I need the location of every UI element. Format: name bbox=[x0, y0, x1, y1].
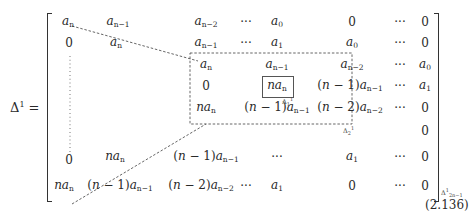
m-r7-c8: 0 bbox=[421, 151, 429, 163]
m-r3-c6: an−2 bbox=[340, 58, 363, 72]
m-r8-c5: a1 bbox=[271, 179, 283, 193]
m-r2-c5: a1 bbox=[271, 36, 283, 50]
m-r2-c3: an−1 bbox=[194, 36, 217, 50]
m-r4-c3: 0 bbox=[202, 80, 210, 92]
m-r1-c4: ··· bbox=[240, 16, 251, 28]
m-r7-c5: ··· bbox=[271, 151, 282, 163]
m-r5-c8: 0 bbox=[421, 102, 429, 114]
m-r8-c8: 0 bbox=[421, 180, 429, 192]
m-r8-c7: ··· bbox=[394, 180, 405, 192]
m-r4-c8: a1 bbox=[419, 79, 431, 93]
m-r1-c7: ··· bbox=[394, 16, 405, 28]
m-r3-c5: an−1 bbox=[265, 58, 288, 72]
m-r7-c3: (n − 1)an−1 bbox=[173, 150, 238, 164]
m-r6-c8: 0 bbox=[421, 125, 429, 137]
m-r2-c7: ··· bbox=[394, 37, 405, 49]
m-r1-c8: 0 bbox=[421, 16, 429, 28]
m-r4-c7: ··· bbox=[394, 80, 405, 92]
m-r4-c5: nan bbox=[267, 79, 287, 93]
m-r1-c6: 0 bbox=[348, 16, 356, 28]
delta-last-label: Δ12n−1 bbox=[441, 187, 463, 198]
m-r8-c2: (n − 1)an−1 bbox=[87, 179, 152, 193]
m-r5-c3: nan bbox=[196, 101, 216, 115]
equation-number: (2.136) bbox=[425, 198, 469, 212]
m-r1-c3: an−2 bbox=[194, 15, 217, 29]
delta-2-label: Δ21 bbox=[343, 125, 354, 136]
m-r5-c6: (n − 2)an−2 bbox=[317, 101, 382, 115]
m-r2-c6: a0 bbox=[346, 36, 358, 50]
m-r8-c3: (n − 2)an−2 bbox=[168, 179, 233, 193]
m-r2-c1: 0 bbox=[65, 37, 73, 49]
m-r3-c7: ··· bbox=[394, 59, 405, 71]
m-r8-c4: ··· bbox=[240, 180, 251, 192]
m-r8-c1: nan bbox=[54, 179, 74, 193]
m-r3-c8: a0 bbox=[419, 58, 431, 72]
m-r7-c6: a1 bbox=[346, 150, 358, 164]
m-r2-c8: 0 bbox=[421, 37, 429, 49]
m-r7-c2: nan bbox=[105, 150, 125, 164]
m-r5-c5: (n − 1)an−1 bbox=[244, 101, 309, 115]
m-r1-c5: a0 bbox=[271, 15, 283, 29]
m-r8-c6: 0 bbox=[348, 180, 356, 192]
m-r3-c3: an bbox=[200, 58, 212, 72]
m-r5-c7: ··· bbox=[394, 102, 405, 114]
m-r2-c2: an bbox=[110, 36, 122, 50]
m-r7-c1: 0 bbox=[65, 154, 73, 166]
m-r2-c4: ··· bbox=[240, 37, 251, 49]
m-r4-c6: (n − 1)an−1 bbox=[317, 79, 382, 93]
m-r1-c1: an bbox=[62, 15, 74, 29]
m-r7-c7: ··· bbox=[394, 151, 405, 163]
m-r1-c2: an−1 bbox=[106, 15, 129, 29]
